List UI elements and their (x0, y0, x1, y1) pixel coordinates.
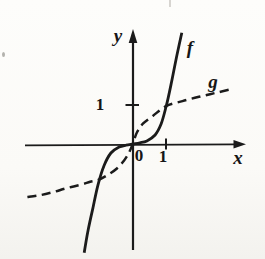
x-axis-label: x (233, 148, 243, 167)
plot-canvas (0, 0, 265, 259)
scan-top-mark-artifact (169, 0, 171, 7)
scan-speck-artifact (2, 52, 5, 57)
y-tick-label-1: 1 (96, 96, 105, 113)
curve-f-label: f (187, 38, 193, 57)
x-tick-label-1: 1 (159, 148, 168, 165)
function-graph-figure: y x f g 1 0 1 (0, 0, 265, 259)
y-axis-label: y (114, 26, 122, 45)
y-axis-arrow-icon (129, 29, 138, 43)
origin-label: 0 (135, 147, 144, 164)
curve-g-label: g (208, 72, 218, 91)
